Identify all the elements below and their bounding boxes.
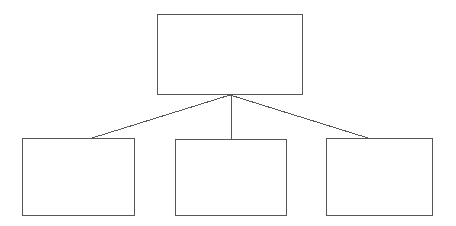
node-child-1[interactable] <box>22 138 135 216</box>
node-child-2[interactable] <box>175 139 287 216</box>
node-child-3[interactable] <box>326 138 433 216</box>
connector-root-to-child-3 <box>230 95 368 138</box>
node-root[interactable] <box>157 14 303 95</box>
connector-root-to-child-1 <box>92 95 230 138</box>
hierarchy-diagram <box>0 0 456 226</box>
